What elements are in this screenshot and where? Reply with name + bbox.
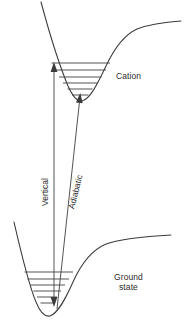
ground-state-label-line2: state xyxy=(119,282,138,292)
diagram-canvas xyxy=(0,0,189,325)
vertical-transition-arrow xyxy=(51,62,58,307)
ground-state-potential-curve xyxy=(14,222,171,316)
vertical-arrowhead-down xyxy=(51,297,58,307)
cation-vibrational-levels xyxy=(52,63,111,95)
cation-potential-curve xyxy=(41,2,181,101)
vertical-transition-label: Vertical xyxy=(40,178,50,206)
vertical-arrowhead-up xyxy=(51,62,58,72)
potential-energy-diagram: Cation Groundstate Vertical Adiabatic xyxy=(0,0,189,325)
cation-label: Cation xyxy=(116,71,141,81)
ground-state-label: Groundstate xyxy=(114,272,143,292)
ground-state-label-line1: Ground xyxy=(114,272,143,282)
